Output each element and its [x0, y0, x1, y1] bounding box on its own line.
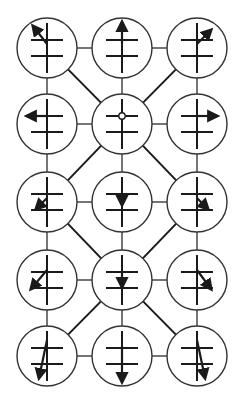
node-r2c2	[92, 94, 152, 154]
node-r5c3	[167, 326, 227, 386]
node-r3c3	[167, 172, 227, 232]
node-r4c3	[167, 250, 227, 310]
node-r3c2	[92, 172, 152, 232]
pendulum-phase-diagram	[0, 0, 240, 400]
diagram-canvas	[0, 0, 240, 400]
diagonal-connector-line	[68, 224, 101, 259]
node-r4c2	[92, 250, 152, 310]
node-r1c3	[167, 18, 227, 78]
pivot-dot-icon	[119, 113, 125, 119]
node-r2c1	[17, 94, 77, 154]
node-r5c2	[92, 326, 152, 386]
node-r3c1	[17, 172, 77, 232]
diagonal-connector-line	[68, 69, 101, 102]
diagonal-connector-line	[143, 146, 176, 181]
node-r1c1	[17, 18, 77, 78]
node-r4c1	[17, 250, 77, 310]
diagonal-connector-line	[68, 301, 101, 334]
state-nodes	[17, 18, 227, 386]
diagonal-connector-line	[143, 224, 176, 259]
diagonal-connector-line	[68, 146, 101, 181]
diagonal-connector-line	[143, 301, 176, 334]
node-r2c3	[167, 94, 227, 154]
diagonal-connector-line	[143, 69, 176, 102]
node-r5c1	[17, 326, 77, 386]
node-r1c2	[92, 18, 152, 78]
